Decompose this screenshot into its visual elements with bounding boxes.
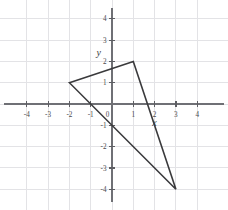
x-axis-tick-label: -2 [66, 111, 72, 119]
y-axis-tick-label: -2 [101, 143, 107, 151]
x-axis-tick-label: 1 [132, 111, 136, 119]
y-axis-tick-label: -3 [101, 165, 107, 173]
y-axis-tick-label: -4 [101, 186, 107, 194]
x-axis-tick-label: 4 [195, 111, 199, 119]
y-axis-tick-label: -1 [101, 122, 107, 130]
coordinate-plane-svg: -4-3-2-101234-4-3-2-11234 yx [0, 0, 228, 210]
y-axis-tick-label: 3 [103, 37, 107, 45]
y-axis-tick-label: 1 [103, 79, 107, 87]
x-axis-tick-label: 3 [174, 111, 178, 119]
x-axis-tick-label: -3 [45, 111, 51, 119]
x-axis-tick-label: 0 [106, 111, 110, 119]
axis-name-label: y [96, 47, 102, 58]
x-axis-tick-label: -1 [88, 111, 94, 119]
coordinate-plane-figure: -4-3-2-101234-4-3-2-11234 yx [0, 0, 228, 210]
grid-lines [0, 0, 228, 210]
axis-name-label: x [151, 117, 157, 128]
y-axis-tick-label: 2 [103, 58, 107, 66]
y-axis-tick-label: 4 [103, 15, 107, 23]
x-axis-tick-label: -4 [24, 111, 30, 119]
axis-lines [4, 8, 224, 202]
